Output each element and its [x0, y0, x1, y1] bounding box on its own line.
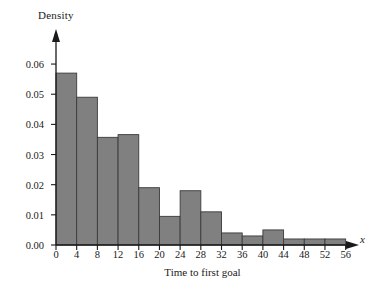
x-tick-label: 16 [129, 249, 149, 260]
x-tick-label: 4 [67, 249, 87, 260]
x-tick-label: 28 [191, 249, 211, 260]
histogram-bar [304, 239, 325, 245]
histogram-bar [118, 135, 139, 245]
x-tick-label: 56 [336, 249, 356, 260]
x-axis-arrow [346, 241, 359, 249]
histogram-chart: Density 0.000.010.020.030.040.050.06 048… [0, 0, 377, 288]
y-axis-arrow [52, 29, 60, 42]
x-tick-label: 8 [87, 249, 107, 260]
histogram-bar [263, 230, 284, 245]
histogram-bar [77, 97, 98, 245]
x-axis-variable-label: x [360, 233, 365, 245]
x-tick-label: 12 [108, 249, 128, 260]
x-tick-label: 32 [212, 249, 232, 260]
histogram-bar [159, 216, 180, 245]
histogram-bar [97, 137, 118, 245]
histogram-bar [325, 239, 346, 245]
histogram-bar [242, 236, 263, 245]
histogram-bars [56, 73, 346, 245]
histogram-bar [201, 212, 222, 245]
x-tick-label: 40 [253, 249, 273, 260]
histogram-bar [180, 191, 201, 245]
x-tick-label: 0 [46, 249, 66, 260]
histogram-bar [222, 233, 243, 245]
x-tick-label: 52 [315, 249, 335, 260]
chart-canvas [0, 0, 377, 288]
histogram-bar [284, 239, 305, 245]
x-tick-label: 48 [294, 249, 314, 260]
histogram-bar [56, 73, 77, 245]
x-tick-label: 20 [149, 249, 169, 260]
histogram-bar [139, 188, 160, 245]
x-axis-title: Time to first goal [0, 266, 377, 278]
x-tick-label: 24 [170, 249, 190, 260]
x-tick-label: 44 [274, 249, 294, 260]
x-tick-label: 36 [232, 249, 252, 260]
